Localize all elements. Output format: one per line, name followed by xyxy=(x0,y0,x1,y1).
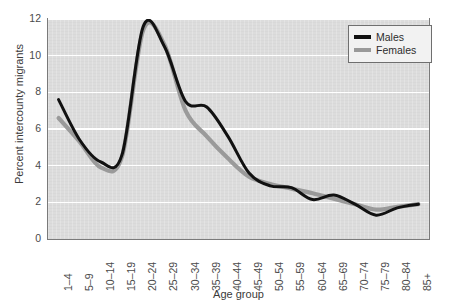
x-tick-label: 15–19 xyxy=(125,262,137,291)
x-axis-title: Age group xyxy=(47,288,430,300)
x-tick-label: 25–29 xyxy=(167,262,179,291)
y-axis-title: Percent intercounty migrants xyxy=(13,0,25,229)
legend-item-females: Females xyxy=(354,44,426,56)
y-tick-label: 0 xyxy=(7,232,41,244)
chart-figure: Percent intercounty migrants 024681012 1… xyxy=(0,0,453,308)
x-tick-label: 20–24 xyxy=(146,262,158,291)
x-tick-label: 50–54 xyxy=(273,262,285,291)
legend-swatch-females xyxy=(354,48,371,53)
legend-item-males: Males xyxy=(354,31,426,43)
x-tick-label: 40–44 xyxy=(231,262,243,291)
x-tick-label: 35–39 xyxy=(210,262,222,291)
legend-label-males: Males xyxy=(376,32,404,43)
legend-swatch-males xyxy=(354,35,371,39)
x-tick-label: 10–14 xyxy=(104,262,116,291)
chart-legend: Males Females xyxy=(348,25,432,63)
x-tick-label: 60–64 xyxy=(316,262,328,291)
x-tick-label: 45–49 xyxy=(252,262,264,291)
x-tick-label: 65–69 xyxy=(337,262,349,291)
x-tick-label: 75–79 xyxy=(379,262,391,291)
legend-label-females: Females xyxy=(376,45,416,56)
x-tick-label: 80–84 xyxy=(400,262,412,291)
x-tick-label: 70–74 xyxy=(358,262,370,291)
x-tick-label: 30–34 xyxy=(189,262,201,291)
x-tick-label: 55–59 xyxy=(294,262,306,291)
